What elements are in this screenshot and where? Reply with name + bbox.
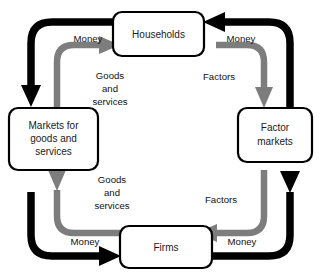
- factor-markets-label-line-1: Factor: [261, 122, 290, 133]
- firms-label: Firms: [154, 242, 179, 253]
- money-arrowhead-into-households: [203, 12, 225, 32]
- node-factor-markets[interactable]: Factor markets: [238, 108, 312, 162]
- label-goods-and-services-bottom: Goods and services: [94, 174, 129, 211]
- label-money-bottom-left: Money: [71, 236, 100, 247]
- label-goods-and-services-top: Goods and services: [92, 70, 127, 107]
- label-factors-top: Factors: [203, 71, 235, 82]
- label-goods-top-line-2: and: [102, 83, 118, 94]
- label-money-top-left: Money: [74, 33, 103, 44]
- real-arrowhead-into-factor-markets: [255, 87, 273, 108]
- markets-label-line-3: services: [35, 146, 72, 157]
- label-goods-bottom-line-3: services: [94, 200, 129, 211]
- label-goods-top-line-1: Goods: [96, 70, 124, 81]
- money-arrowhead-into-markets: [21, 85, 41, 107]
- money-arrowhead-into-factor-markets: [280, 171, 300, 193]
- node-markets-goods-services[interactable]: Markets for goods and services: [9, 108, 98, 170]
- node-firms[interactable]: Firms: [120, 226, 212, 268]
- markets-label-line-1: Markets for: [28, 120, 79, 131]
- label-money-top-right: Money: [227, 33, 256, 44]
- label-money-bottom-right: Money: [228, 236, 257, 247]
- label-goods-bottom-line-1: Goods: [98, 174, 126, 185]
- factor-markets-label-line-2: markets: [257, 136, 293, 147]
- label-goods-top-line-3: services: [92, 96, 127, 107]
- label-factors-bottom: Factors: [205, 194, 237, 205]
- circular-flow-diagram: Households Markets for goods and service…: [0, 0, 321, 278]
- real-arrowhead-into-markets: [48, 170, 66, 191]
- households-label: Households: [132, 29, 185, 40]
- money-arrowhead-into-firms: [99, 246, 121, 266]
- node-households[interactable]: Households: [113, 12, 204, 56]
- markets-label-line-2: goods and: [30, 133, 77, 144]
- label-goods-bottom-line-2: and: [104, 187, 120, 198]
- flow-svg: Households Markets for goods and service…: [0, 0, 321, 278]
- real-path-top-right: [216, 45, 264, 88]
